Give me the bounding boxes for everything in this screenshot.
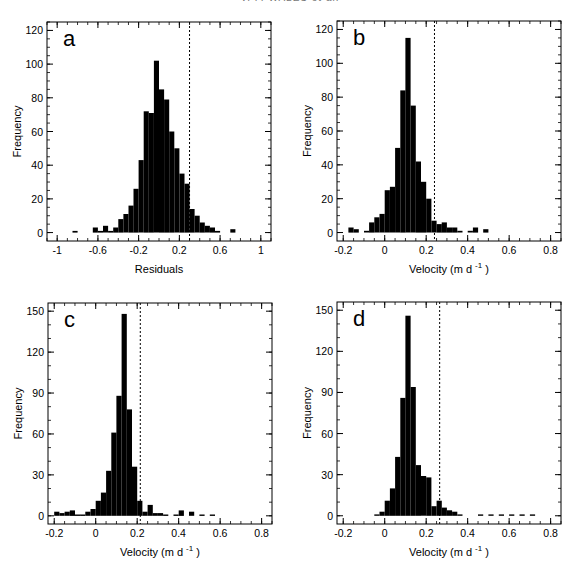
histogram-bar (80, 515, 85, 516)
panel-label: c (64, 307, 75, 332)
histogram-bar (142, 512, 147, 516)
histogram-bar (205, 226, 210, 233)
histogram-bar (179, 174, 184, 233)
histogram-bar (210, 228, 215, 233)
histogram-bar (129, 206, 134, 233)
histogram-bar (437, 224, 442, 233)
histogram-bar (374, 217, 379, 232)
panel-c: -0.200.20.40.60.80306090120150cFrequency… (12, 303, 272, 558)
histogram-bar (509, 514, 514, 515)
histogram-bar (416, 162, 421, 233)
histogram-bar (159, 89, 164, 232)
y-tick-label: 60 (32, 428, 44, 440)
histogram-bar (421, 476, 426, 516)
histogram-bar (154, 61, 159, 233)
axis-ticks (337, 21, 561, 241)
y-tick-label: 0 (327, 227, 333, 239)
y-tick-label: 120 (26, 346, 44, 358)
histogram-bar (530, 514, 535, 515)
histogram-bar (70, 510, 75, 516)
y-tick-label: 20 (31, 193, 43, 205)
x-tick-label: 0.6 (502, 244, 517, 256)
y-tick-label: 90 (32, 387, 44, 399)
histogram-bar (405, 38, 410, 233)
histogram-bar (144, 111, 149, 232)
y-axis-label: Frequency (301, 105, 313, 157)
histogram-bar (447, 228, 452, 233)
x-axis-label: Residuals (135, 263, 184, 275)
histogram-bar (98, 231, 103, 233)
y-tick-label: 0 (37, 227, 43, 239)
histogram-bars (73, 61, 236, 233)
histogram-bar (54, 512, 59, 516)
histogram-bar (101, 493, 106, 516)
histogram-bar (132, 467, 137, 516)
histogram-bar (148, 505, 153, 516)
histogram-bar (369, 222, 374, 232)
x-tick-label: 0.6 (502, 527, 517, 539)
y-tick-label: 120 (25, 24, 43, 36)
plot-frame (337, 302, 561, 524)
x-tick-label: 0.8 (254, 527, 269, 539)
y-tick-label: 90 (321, 386, 333, 398)
y-tick-label: 150 (315, 304, 333, 316)
panel-label: b (353, 25, 365, 50)
x-tick-label: 0 (93, 527, 99, 539)
histogram-bar (122, 314, 127, 516)
x-tick-label: -0.6 (89, 244, 107, 256)
y-axis-label: Frequency (11, 105, 23, 157)
histogram-bar (158, 513, 163, 516)
y-tick-label: 20 (321, 193, 333, 205)
y-tick-label: 0 (38, 510, 44, 522)
histogram-bar (127, 409, 132, 515)
histogram-bar (116, 396, 121, 516)
histogram-bar (488, 514, 493, 515)
histogram-bar (93, 228, 98, 233)
histogram-bar (520, 514, 525, 515)
histogram-bars (374, 316, 535, 516)
histogram-bar (195, 216, 200, 233)
y-tick-label: 80 (321, 91, 333, 103)
histogram-bar (200, 223, 205, 233)
y-tick-label: 0 (327, 510, 333, 522)
histogram-bar (452, 228, 457, 233)
histogram-bar (164, 100, 169, 233)
x-tick-label: 0.2 (172, 244, 187, 256)
x-tick-label: 0.6 (213, 244, 228, 256)
histogram-figure: -1-0.6-0.20.20.61020406080100120aFrequen… (0, 0, 580, 568)
x-tick-label: 0.4 (460, 527, 475, 539)
histogram-bar (210, 515, 215, 516)
histogram-bar (400, 398, 405, 516)
histogram-bar (174, 515, 179, 516)
histogram-bar (405, 316, 410, 516)
histogram-bar (416, 465, 421, 516)
x-tick-label: 1 (258, 244, 264, 256)
histogram-bar (473, 228, 478, 233)
y-tick-label: 120 (315, 23, 333, 35)
histogram-bar (185, 184, 190, 233)
panel-a: -1-0.6-0.20.20.61020406080100120aFrequen… (11, 22, 271, 275)
panel-label: a (63, 26, 76, 51)
x-axis-label: Velocity (m d -1 ) (409, 261, 489, 275)
histogram-bar (174, 148, 179, 232)
x-tick-label: -0.2 (334, 244, 352, 256)
histogram-bar (468, 231, 473, 233)
histogram-bar (380, 214, 385, 233)
histogram-bar (65, 512, 70, 516)
y-axis-label: Frequency (12, 387, 24, 439)
histogram-bar (483, 229, 488, 232)
y-axis-label: Frequency (301, 387, 313, 439)
x-tick-label: -0.2 (45, 527, 63, 539)
y-tick-label: 40 (31, 159, 43, 171)
histogram-bar (390, 488, 395, 515)
histogram-bar (85, 512, 90, 516)
histogram-bar (442, 508, 447, 516)
plot-frame (337, 21, 561, 241)
histogram-bar (103, 226, 108, 233)
axis-ticks (337, 302, 561, 524)
y-tick-label: 60 (321, 125, 333, 137)
histogram-bar (106, 471, 111, 516)
histogram-bar (457, 231, 462, 233)
panel-d: -0.200.20.40.60.80306090120150dFrequency… (301, 302, 561, 558)
y-tick-label: 60 (321, 428, 333, 440)
